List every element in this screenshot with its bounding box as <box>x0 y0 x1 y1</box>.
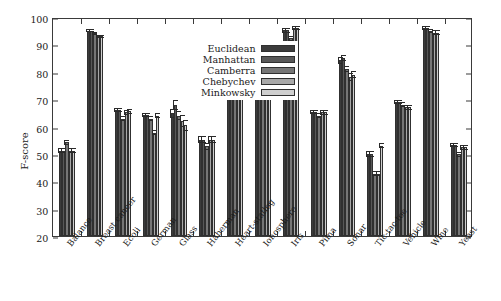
x-tick-mark <box>137 19 138 24</box>
y-tick-label: 50 <box>36 150 53 161</box>
bar-fill <box>184 125 187 236</box>
x-tick-mark <box>389 19 390 24</box>
x-tick-mark <box>249 19 250 24</box>
error-bar <box>127 109 132 114</box>
legend-label: Chebychev <box>203 76 256 87</box>
error-bar <box>407 105 412 109</box>
x-tick-mark <box>305 19 306 24</box>
error-bar <box>463 145 468 150</box>
bar-fill <box>380 146 383 236</box>
y-tick-mark <box>53 128 58 129</box>
legend-swatch <box>261 78 295 85</box>
error-bar <box>379 143 384 148</box>
y-tick-label: 40 <box>36 178 53 189</box>
x-tick-mark <box>165 19 166 24</box>
bar <box>72 19 75 236</box>
bar-group <box>395 19 412 236</box>
bar-fill <box>212 140 215 236</box>
x-tick-mark <box>277 19 278 24</box>
y-tick-label: 80 <box>36 68 53 79</box>
y-tick-label: 60 <box>36 123 53 134</box>
bar-group <box>143 19 160 236</box>
x-tick-mark <box>193 19 194 24</box>
error-bar <box>71 148 76 152</box>
bar-fill <box>408 107 411 236</box>
y-tick-label: 20 <box>36 233 53 244</box>
x-tick-mark <box>333 19 334 24</box>
legend-label: Euclidean <box>208 43 256 54</box>
legend-item: Euclidean <box>201 43 295 54</box>
y-tick-mark <box>53 155 58 156</box>
y-tick-mark <box>53 210 58 211</box>
bar-fill <box>240 90 243 236</box>
error-bar <box>155 113 160 118</box>
legend-item: Manhattan <box>201 54 295 65</box>
y-tick-mark <box>53 19 58 20</box>
error-bar <box>183 120 188 131</box>
y-tick-label: 30 <box>36 205 53 216</box>
x-tick-mark <box>361 19 362 24</box>
bar-group <box>87 19 104 236</box>
legend-item: Chebychev <box>201 76 295 87</box>
bar <box>184 19 187 236</box>
legend-label: Manhattan <box>203 54 256 65</box>
y-tick-label: 70 <box>36 96 53 107</box>
bar-fill <box>100 36 103 236</box>
bar <box>100 19 103 236</box>
bar-fill <box>352 75 355 237</box>
chart-legend: EuclideanManhattanCamberraChebychevMinko… <box>199 41 298 100</box>
y-axis-label: F-score <box>19 132 30 169</box>
bar <box>408 19 411 236</box>
bar-fill <box>464 147 467 236</box>
bar <box>352 19 355 236</box>
legend-swatch <box>261 45 295 52</box>
legend-label: Minkowsky <box>201 87 256 98</box>
bar-group <box>451 19 468 236</box>
y-tick-mark <box>53 101 58 102</box>
bar <box>380 19 383 236</box>
bar-group <box>59 19 76 236</box>
legend-swatch <box>261 56 295 63</box>
x-tick-mark <box>81 19 82 24</box>
bar-group <box>367 19 384 236</box>
y-tick-label: 100 <box>30 14 53 25</box>
bar-fill <box>324 112 327 236</box>
bar <box>324 19 327 236</box>
error-bar <box>211 136 216 143</box>
bar-fill <box>436 33 439 236</box>
bar-group <box>339 19 356 236</box>
legend-swatch <box>261 67 295 74</box>
error-bar <box>295 26 300 30</box>
bar-group <box>423 19 440 236</box>
f-score-bar-chart: F-score 2030405060708090100 EuclideanMan… <box>0 0 501 301</box>
legend-item: Minkowsky <box>201 87 295 98</box>
bar-fill <box>72 151 75 236</box>
y-tick-mark <box>53 183 58 184</box>
error-bar <box>435 30 440 35</box>
bar <box>436 19 439 236</box>
error-bar <box>351 71 356 78</box>
bar-fill <box>128 111 131 236</box>
x-tick-mark <box>417 19 418 24</box>
x-tick-mark <box>109 19 110 24</box>
legend-item: Camberra <box>201 65 295 76</box>
bar-group <box>311 19 328 236</box>
y-tick-mark <box>53 46 58 47</box>
error-bar <box>323 110 328 115</box>
y-tick-mark <box>53 238 58 239</box>
bar <box>464 19 467 236</box>
error-bar <box>99 35 104 38</box>
x-tick-mark <box>445 19 446 24</box>
y-tick-label: 90 <box>36 41 53 52</box>
x-tick-mark <box>221 19 222 24</box>
legend-swatch <box>261 89 295 96</box>
bar-fill <box>156 116 159 236</box>
bar <box>156 19 159 236</box>
y-tick-mark <box>53 73 58 74</box>
bar-group <box>171 19 188 236</box>
legend-label: Camberra <box>207 65 255 76</box>
